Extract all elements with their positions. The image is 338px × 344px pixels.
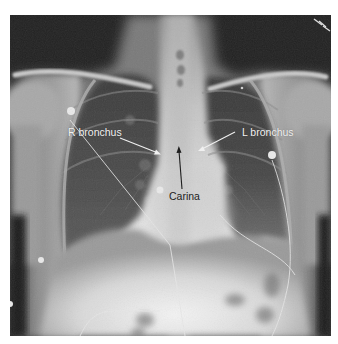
xray-rendering [10, 15, 331, 336]
r-bronchus-label: R bronchus [68, 126, 122, 138]
l-bronchus-label: L bronchus [242, 126, 294, 138]
carina-label: Carina [169, 190, 200, 202]
chest-xray-image [10, 15, 331, 336]
